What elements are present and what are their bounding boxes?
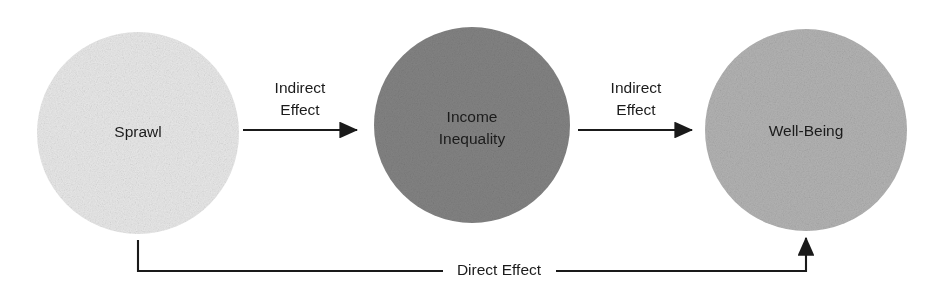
income-inequality-label-line1: Income [447,108,498,125]
diagram-canvas: Sprawl Income Inequality Well-Being Indi… [0,0,945,288]
edge-direct-effect-right-segment [556,238,806,271]
income-inequality-label-line2: Inequality [439,130,506,147]
edge-sprawl-to-income[interactable]: Indirect Effect [243,79,357,130]
sprawl-label: Sprawl [114,123,161,140]
edge-income-to-well-being[interactable]: Indirect Effect [578,79,692,130]
edge-income-to-well-being-label-line1: Indirect [611,79,663,96]
node-well-being[interactable]: Well-Being [705,29,907,231]
diagram-svg: Sprawl Income Inequality Well-Being Indi… [0,0,945,288]
edge-direct-effect-left-segment [138,240,443,271]
well-being-label: Well-Being [769,122,844,139]
node-income-inequality[interactable]: Income Inequality [374,27,570,223]
edge-sprawl-to-income-label-line1: Indirect [275,79,327,96]
node-sprawl[interactable]: Sprawl [37,32,239,234]
edge-income-to-well-being-label-line2: Effect [616,101,656,118]
edge-sprawl-to-income-label-line2: Effect [280,101,320,118]
edge-direct-effect[interactable]: Direct Effect [138,238,806,278]
edge-direct-effect-label: Direct Effect [457,261,542,278]
